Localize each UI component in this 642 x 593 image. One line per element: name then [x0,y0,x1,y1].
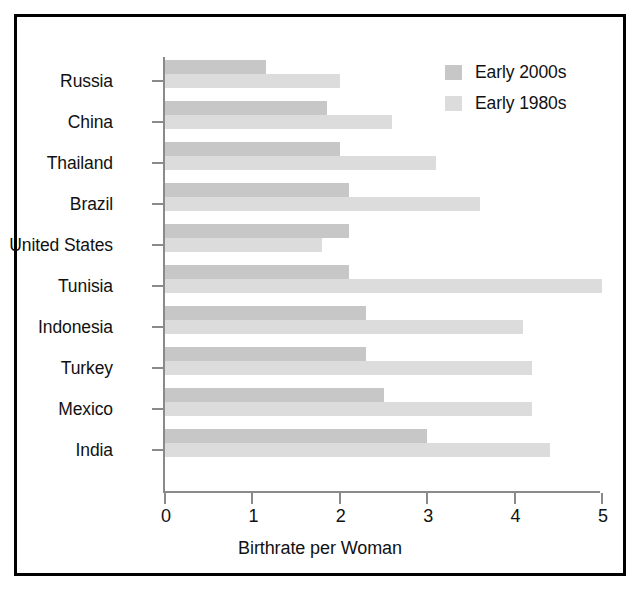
category-tick [152,121,164,123]
x-axis-line [163,491,600,493]
bar-older [165,320,523,334]
x-tick [601,493,603,504]
category-label: China [68,111,113,132]
x-axis-title: Birthrate per Woman [17,538,623,559]
chart-figure: Early 2000s Early 1980s RussiaChinaThail… [14,14,626,576]
x-tick-label: 1 [233,506,273,527]
category-label: Brazil [70,193,113,214]
x-tick-label: 0 [146,506,186,527]
bar-recent [165,224,349,238]
category-label: India [76,439,113,460]
bar-recent [165,60,266,74]
bar-recent [165,306,366,320]
bar-recent [165,183,349,197]
bar-recent [165,265,349,279]
bar-recent [165,347,366,361]
x-tick [426,493,428,504]
category-tick [152,326,164,328]
category-tick [152,203,164,205]
x-tick [339,493,341,504]
bar-older [165,361,532,375]
plot-area: Early 2000s Early 1980s RussiaChinaThail… [17,17,623,573]
bar-older [165,279,602,293]
bar-older [165,197,480,211]
bar-older [165,156,436,170]
category-label: Russia [60,70,113,91]
bar-older [165,115,392,129]
bar-recent [165,388,384,402]
bar-recent [165,142,340,156]
category-tick [152,162,164,164]
x-tick-label: 5 [583,506,623,527]
x-tick-label: 2 [321,506,361,527]
bar-older [165,238,322,252]
category-label: Mexico [58,398,113,419]
bar-older [165,74,340,88]
category-label: Turkey [61,357,113,378]
x-tick [164,493,166,504]
bar-recent [165,429,427,443]
category-label: Thailand [47,152,113,173]
category-label: United States [9,234,113,255]
category-tick [152,285,164,287]
category-label: Indonesia [38,316,113,337]
category-tick [152,244,164,246]
category-tick [152,408,164,410]
x-tick [514,493,516,504]
x-tick-label: 3 [408,506,448,527]
category-tick [152,367,164,369]
x-tick-label: 4 [496,506,536,527]
bar-recent [165,101,327,115]
x-tick [251,493,253,504]
category-tick [152,80,164,82]
category-label: Tunisia [58,275,113,296]
category-tick [152,449,164,451]
bar-older [165,402,532,416]
bar-older [165,443,550,457]
